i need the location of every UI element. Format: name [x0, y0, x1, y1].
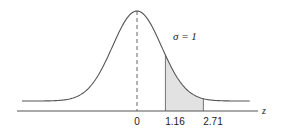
z-axis-label: z: [261, 105, 266, 116]
bell-curve: [22, 11, 250, 101]
normal-distribution-chart: σ = 1 z 0 1.16 2.71: [0, 0, 284, 132]
tick-label-0: 0: [134, 116, 140, 127]
shaded-area: [165, 55, 203, 111]
tick-label-1-16: 1.16: [165, 116, 185, 127]
sigma-annotation: σ = 1: [173, 30, 197, 42]
tick-label-2-71: 2.71: [203, 116, 223, 127]
